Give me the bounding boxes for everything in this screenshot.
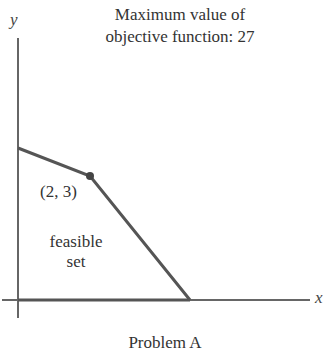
title-line-2: objective function: 27 xyxy=(50,26,310,48)
caption: Problem A xyxy=(0,333,330,353)
region-label-line-2: set xyxy=(40,252,112,272)
feasible-region-boundary xyxy=(18,148,190,300)
region-label: feasible set xyxy=(40,232,112,272)
x-axis-label: x xyxy=(315,288,323,308)
vertex-label: (2, 3) xyxy=(40,182,77,202)
region-label-line-1: feasible xyxy=(40,232,112,252)
optimal-vertex-dot xyxy=(86,172,94,180)
title-line-1: Maximum value of xyxy=(50,4,310,26)
y-axis-label: y xyxy=(10,10,18,30)
chart-title: Maximum value of objective function: 27 xyxy=(50,4,310,48)
